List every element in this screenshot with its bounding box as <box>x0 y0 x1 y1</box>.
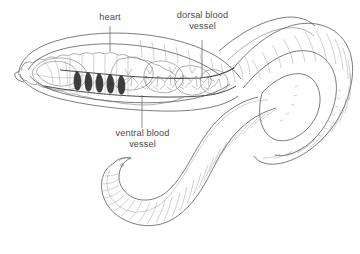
label-ventral-line-1: ventral blood <box>116 128 170 138</box>
earthworm-circulatory-diagram: .ln { fill:none; stroke:#5a5a5a; stroke-… <box>0 0 360 254</box>
label-dorsal-line-1: dorsal blood <box>177 10 228 20</box>
label-ventral-blood-vessel: ventral blood vessel <box>95 128 190 150</box>
label-ventral-line-2: vessel <box>129 139 156 149</box>
label-heart: heart <box>84 12 136 23</box>
worm-illustration: .ln { fill:none; stroke:#5a5a5a; stroke-… <box>0 0 360 254</box>
label-dorsal-blood-vessel: dorsal blood vessel <box>155 10 250 32</box>
label-heart-line-1: heart <box>99 12 120 22</box>
worm-posterior-tail <box>102 97 278 226</box>
worm-anterior-dissected <box>15 33 250 111</box>
label-dorsal-line-2: vessel <box>189 21 216 31</box>
